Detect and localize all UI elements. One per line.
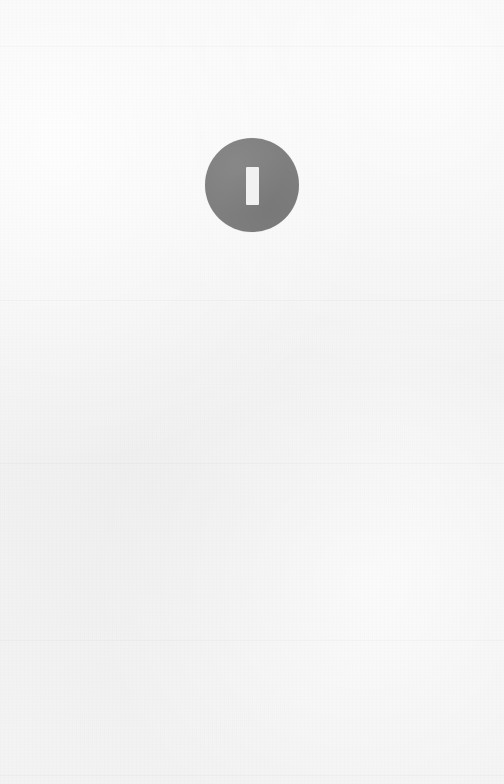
badge-container (0, 138, 504, 232)
info-bar-icon[interactable] (205, 138, 299, 232)
page-banding-line (0, 775, 504, 776)
page-grain-overlay (0, 0, 504, 784)
page-canvas (0, 0, 504, 784)
vertical-bar-glyph (246, 167, 259, 205)
page-background-texture (0, 0, 504, 784)
page-banding-line (0, 46, 504, 47)
page-banding-line (0, 463, 504, 464)
page-banding-line (0, 300, 504, 301)
page-banding-line (0, 640, 504, 641)
